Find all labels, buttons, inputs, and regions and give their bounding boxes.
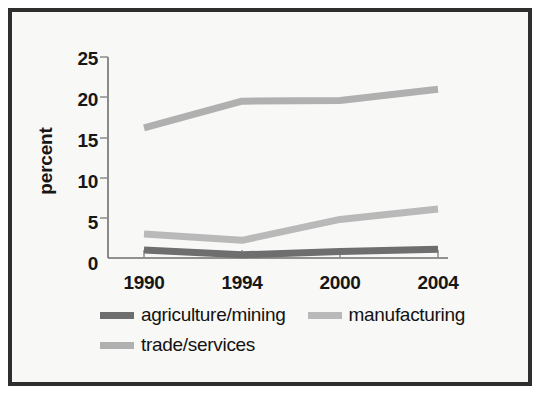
legend-item-agriculture-mining[interactable]: agriculture/mining bbox=[100, 304, 286, 326]
legend-swatch-manufacturing bbox=[308, 312, 342, 319]
legend-item-trade-services[interactable]: trade/services bbox=[100, 334, 255, 356]
legend-label-manufacturing: manufacturing bbox=[349, 304, 466, 326]
legend-row-1: agriculture/mining manufacturing bbox=[100, 300, 520, 330]
legend-row-2: trade/services bbox=[100, 330, 520, 360]
legend-label-agriculture-mining: agriculture/mining bbox=[141, 304, 286, 326]
chart-plate: percent 25 20 15 10 5 0 1990 1994 2000 2… bbox=[12, 12, 528, 382]
figure: percent 25 20 15 10 5 0 1990 1994 2000 2… bbox=[0, 0, 540, 394]
legend-item-manufacturing[interactable]: manufacturing bbox=[308, 304, 466, 326]
series-line-trade-services bbox=[144, 89, 438, 128]
legend-label-trade-services: trade/services bbox=[141, 334, 255, 356]
series-line-manufacturing bbox=[144, 209, 438, 240]
legend-swatch-trade-services bbox=[100, 342, 134, 349]
chart-legend: agriculture/mining manufacturing trade/s… bbox=[100, 300, 520, 360]
series-line-agriculture-mining bbox=[144, 249, 438, 255]
chart-area: percent 25 20 15 10 5 0 1990 1994 2000 2… bbox=[12, 12, 528, 382]
legend-swatch-agriculture-mining bbox=[100, 312, 134, 319]
